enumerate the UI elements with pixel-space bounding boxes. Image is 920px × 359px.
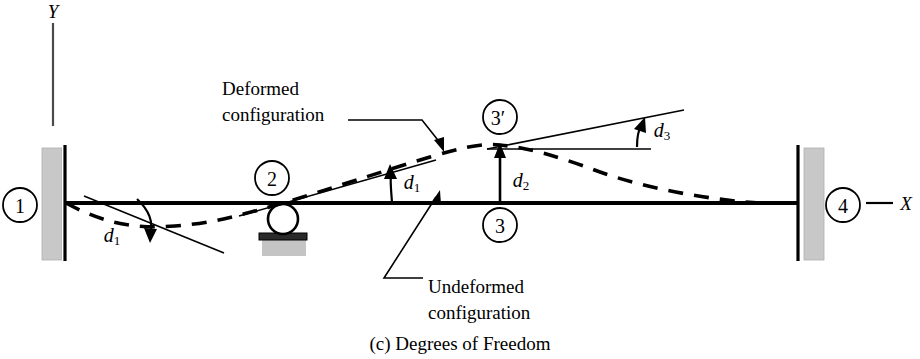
undeformed-configuration-line2: configuration bbox=[428, 303, 530, 322]
roller-support-circle bbox=[268, 204, 298, 234]
node-3-label: 3 bbox=[495, 216, 505, 236]
deformed-leader-arrowhead bbox=[434, 137, 444, 152]
d1-mid-label: d1 bbox=[404, 172, 421, 194]
d1-left-symbol: d bbox=[104, 224, 114, 246]
deformed-configuration-curve bbox=[66, 145, 797, 227]
roller-support-shadow-block bbox=[262, 238, 306, 256]
d2-label: d2 bbox=[513, 170, 530, 192]
d1-left-arrowhead bbox=[144, 228, 157, 243]
d1-left-subscript: 1 bbox=[114, 233, 121, 248]
undeformed-configuration-line1: Undeformed bbox=[428, 277, 524, 296]
undeformed-leader-arrowhead bbox=[431, 190, 441, 205]
d3-label: d3 bbox=[654, 120, 671, 142]
d3-symbol: d bbox=[654, 119, 664, 141]
d1-mid-symbol: d bbox=[404, 171, 414, 193]
undeformed-leader-line bbox=[384, 197, 436, 278]
d1-left-label: d1 bbox=[104, 225, 121, 247]
node-4-label: 4 bbox=[838, 196, 848, 216]
node-3-prime-label: 3′ bbox=[491, 108, 505, 128]
left-wall-hatch-block bbox=[42, 148, 62, 260]
y-axis-label: Y bbox=[48, 2, 59, 21]
node-3-prime-mark: ′ bbox=[501, 107, 505, 129]
right-wall-hatch-block bbox=[804, 148, 824, 260]
d1-mid-subscript: 1 bbox=[414, 180, 421, 195]
deformed-configuration-line2: configuration bbox=[222, 105, 324, 124]
figure-caption: (c) Degrees of Freedom bbox=[370, 334, 551, 353]
deformed-leader-line bbox=[348, 120, 441, 144]
node-3-prime-number: 3 bbox=[491, 107, 501, 129]
node-2-label: 2 bbox=[267, 169, 277, 189]
d2-symbol: d bbox=[513, 169, 523, 191]
deformed-configuration-line1: Deformed bbox=[222, 79, 299, 98]
d2-subscript: 2 bbox=[523, 178, 530, 193]
degrees-of-freedom-figure: Y X 1 2 3′ 3 4 d1 d1 d2 d3 Deformed conf… bbox=[0, 0, 920, 359]
d3-subscript: 3 bbox=[664, 128, 671, 143]
x-axis-label: X bbox=[900, 194, 912, 213]
node-1-label: 1 bbox=[15, 196, 25, 216]
